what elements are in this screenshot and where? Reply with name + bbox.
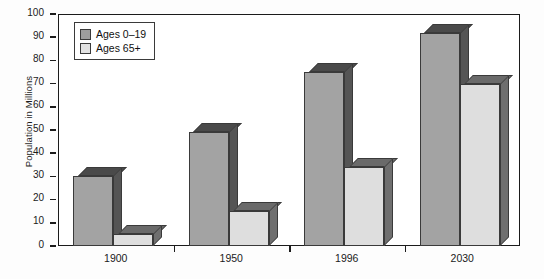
legend-label-ages-65-plus: Ages 65+	[96, 42, 141, 54]
y-axis-tick-mark	[50, 129, 56, 131]
bar-1950-series-2	[229, 211, 269, 246]
legend-label-ages-0-19: Ages 0–19	[96, 28, 146, 40]
chart-legend: Ages 0–19 Ages 65+	[74, 22, 155, 60]
bar-front-face	[420, 33, 460, 246]
x-axis-label-1950: 1950	[186, 252, 276, 264]
y-axis-tick-label: 70	[33, 76, 44, 87]
y-axis-tick-label: 30	[33, 169, 44, 180]
y-axis-tick-label: 60	[33, 99, 44, 110]
y-axis-tick-label: 40	[33, 146, 44, 157]
bar-front-face	[304, 72, 344, 246]
y-axis-tick-mark	[50, 152, 56, 154]
y-axis-tick-mark	[50, 60, 56, 62]
y-axis-title: Population in Millions	[23, 32, 34, 212]
legend-swatch-ages-0-19	[80, 29, 91, 40]
x-axis-label-1996: 1996	[302, 252, 392, 264]
x-axis-tick-mark	[174, 246, 176, 252]
y-axis-tick-label: 90	[33, 30, 44, 41]
legend-swatch-ages-65-plus	[80, 43, 91, 54]
bar-1996-series-2	[344, 167, 384, 246]
bar-front-face	[113, 234, 153, 246]
y-axis-tick-mark	[50, 176, 56, 178]
bar-front-face	[460, 84, 500, 246]
x-axis-label-1900: 1900	[71, 252, 161, 264]
x-axis-tick-mark	[405, 246, 407, 252]
bar-side-face	[384, 158, 393, 246]
bar-front-face	[344, 167, 384, 246]
bar-side-face	[500, 75, 509, 246]
bar-chart: Population in Millions 01020304050607080…	[0, 0, 544, 279]
y-axis-tick-mark	[50, 36, 56, 38]
y-axis-tick-mark	[50, 245, 56, 247]
y-axis-tick-label: 100	[27, 7, 44, 18]
y-axis-tick-label: 0	[38, 239, 44, 250]
x-axis-label-2030: 2030	[417, 252, 507, 264]
bar-1996-series-1	[304, 72, 344, 246]
y-axis-tick-mark	[50, 222, 56, 224]
y-axis-tick-mark	[50, 199, 56, 201]
y-axis-tick-label: 10	[33, 215, 44, 226]
bar-2030-series-2	[460, 84, 500, 246]
bar-1900-series-1	[73, 176, 113, 246]
bar-front-face	[229, 211, 269, 246]
y-axis-tick-mark	[50, 13, 56, 15]
y-axis-tick-label: 80	[33, 53, 44, 64]
x-axis-tick-mark	[289, 246, 291, 252]
y-axis-tick-label: 50	[33, 123, 44, 134]
bar-1900-series-2	[113, 234, 153, 246]
legend-item: Ages 65+	[80, 41, 146, 55]
legend-item: Ages 0–19	[80, 27, 146, 41]
bar-2030-series-1	[420, 33, 460, 246]
bar-1950-series-1	[189, 132, 229, 246]
y-axis-tick-mark	[50, 106, 56, 108]
bar-front-face	[189, 132, 229, 246]
y-axis-tick-mark	[50, 83, 56, 85]
bar-front-face	[73, 176, 113, 246]
y-axis-tick-label: 20	[33, 192, 44, 203]
